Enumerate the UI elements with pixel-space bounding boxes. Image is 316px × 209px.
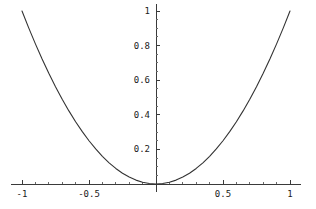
plot-canvas <box>0 0 316 209</box>
y-tick-label: 1 <box>145 7 150 16</box>
x-tick-label: -1 <box>17 190 28 199</box>
y-tick-label: 0.4 <box>134 110 150 119</box>
x-tick-label: -0.5 <box>78 190 100 199</box>
y-axis-ticks <box>156 11 160 175</box>
y-tick-label: 0.2 <box>134 145 150 154</box>
y-tick-label: 0.8 <box>134 41 150 50</box>
plot-figure: -1-0.50.51 0.20.40.60.81 <box>0 0 316 209</box>
x-tick-label: 0.5 <box>215 190 231 199</box>
x-tick-label: 1 <box>287 190 292 199</box>
y-tick-label: 0.6 <box>134 76 150 85</box>
